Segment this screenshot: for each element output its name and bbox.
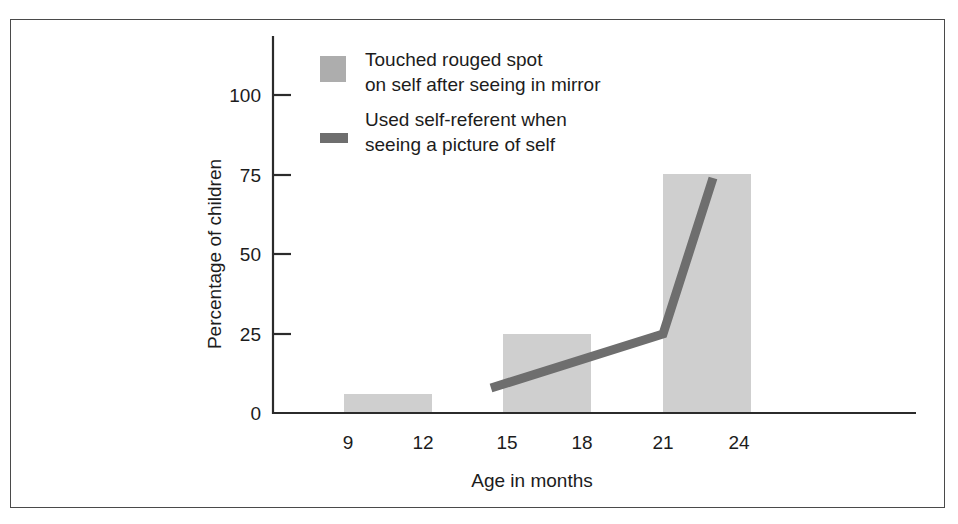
x-tick-label-15: 15 (496, 432, 517, 453)
x-axis-title: Age in months (471, 470, 592, 491)
bar-9-12 (344, 394, 432, 413)
legend-entry-1-line1: Used self-referent when (365, 109, 567, 130)
legend-entry-0-line2: on self after seeing in mirror (365, 74, 601, 95)
x-tick-label-9: 9 (343, 432, 354, 453)
x-tick-label-24: 24 (728, 432, 750, 453)
figure-frame: Touched rouged spot on self after seeing… (10, 19, 945, 508)
y-tick-label-25: 25 (240, 324, 261, 345)
legend-entry-1-line2: seeing a picture of self (365, 134, 556, 155)
x-tick-label-18: 18 (571, 432, 592, 453)
y-tick-label-0: 0 (250, 403, 261, 424)
y-tick-labels: 100 75 50 25 0 (229, 85, 261, 424)
x-tick-label-12: 12 (412, 432, 433, 453)
legend-line-swatch (320, 133, 348, 143)
x-tick-labels: 9 12 15 18 21 24 (343, 432, 750, 453)
bar-series (344, 174, 751, 413)
x-tick-label-21: 21 (652, 432, 673, 453)
y-axis-title: Percentage of children (204, 159, 225, 349)
y-tick-label-100: 100 (229, 85, 261, 106)
y-tick-label-50: 50 (240, 244, 261, 265)
legend-entry-0-line1: Touched rouged spot (365, 49, 543, 70)
chart-plot-area: Touched rouged spot on self after seeing… (11, 20, 946, 509)
legend-bar-swatch (320, 56, 346, 82)
y-tick-label-75: 75 (240, 165, 261, 186)
chart-legend: Touched rouged spot on self after seeing… (320, 49, 601, 155)
